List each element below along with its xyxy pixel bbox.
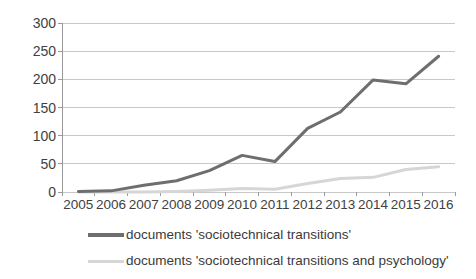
line-chart: 050100150200250300 200520062007200820092… — [0, 0, 476, 279]
legend-swatch-series-1 — [88, 233, 124, 237]
y-axis: 050100150200250300 — [0, 0, 56, 215]
x-axis-tick-label: 2013 — [324, 195, 357, 217]
chart-legend: documents 'sociotechnical transitions' d… — [0, 222, 476, 274]
x-axis-tick-label: 2010 — [226, 195, 259, 217]
y-axis-tick-label: 300 — [2, 16, 56, 30]
x-axis-tick-label: 2009 — [193, 195, 226, 217]
y-axis-tick-label: 200 — [2, 72, 56, 86]
legend-swatch-series-2 — [88, 260, 124, 263]
x-axis-tick-label: 2011 — [259, 195, 292, 217]
x-axis-tick-label: 2016 — [422, 195, 455, 217]
x-axis-tick-label: 2007 — [128, 195, 161, 217]
y-axis-tick-label: 0 — [2, 185, 56, 199]
y-axis-tick-label: 250 — [2, 44, 56, 58]
x-axis-tick-label: 2005 — [62, 195, 95, 217]
x-axis-tick-label: 2014 — [357, 195, 390, 217]
series-line-1 — [78, 56, 438, 191]
legend-item: documents 'sociotechnical transitions' — [0, 222, 476, 248]
legend-item: documents 'sociotechnical transitions an… — [0, 248, 476, 274]
legend-label-series-1: documents 'sociotechnical transitions' — [126, 227, 351, 243]
x-axis-tick-label: 2015 — [390, 195, 423, 217]
x-axis: 2005200620072008200920102011201220132014… — [62, 195, 455, 217]
legend-label-series-2: documents 'sociotechnical transitions an… — [126, 253, 449, 269]
y-axis-tick-label: 150 — [2, 101, 56, 115]
plot-svg — [0, 0, 476, 215]
y-axis-tick-label: 50 — [2, 157, 56, 171]
x-axis-tick-label: 2006 — [95, 195, 128, 217]
x-axis-tick-label: 2008 — [160, 195, 193, 217]
plot-area — [0, 0, 476, 215]
y-axis-tick-label: 100 — [2, 129, 56, 143]
x-axis-tick-label: 2012 — [291, 195, 324, 217]
